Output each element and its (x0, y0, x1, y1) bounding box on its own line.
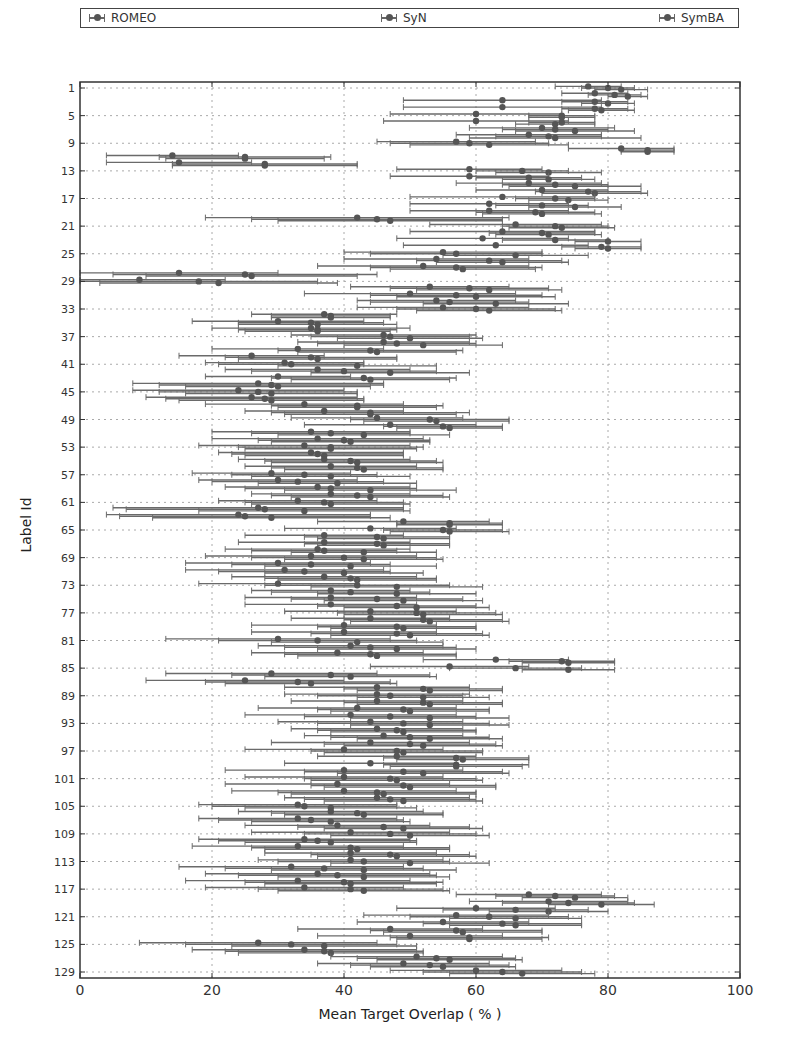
data-point-symba (407, 784, 413, 790)
data-point-symba (605, 238, 611, 244)
data-point-romeo (374, 795, 380, 801)
data-point-romeo (301, 946, 307, 952)
data-point-symba (572, 204, 578, 210)
data-point-romeo (479, 235, 485, 241)
data-point-syn (559, 658, 565, 664)
data-point-syn (552, 126, 558, 132)
data-point-romeo (473, 118, 479, 124)
data-point-syn (420, 617, 426, 623)
data-point-symba (314, 356, 320, 362)
y-tick-label: 89 (61, 690, 75, 703)
data-point-syn (440, 423, 446, 429)
data-point-romeo (374, 684, 380, 690)
data-point-romeo (407, 933, 413, 939)
data-point-romeo (321, 311, 327, 317)
data-point-romeo (440, 249, 446, 255)
data-point-syn (361, 375, 367, 381)
data-point-symba (328, 446, 334, 452)
data-point-symba (545, 176, 551, 182)
data-point-syn (592, 106, 598, 112)
data-point-symba (598, 107, 604, 113)
y-tick-label: 73 (61, 579, 75, 592)
data-point-syn (387, 693, 393, 699)
data-point-romeo (255, 380, 261, 386)
data-point-syn (486, 257, 492, 263)
data-point-romeo (367, 719, 373, 725)
data-point-symba (407, 708, 413, 714)
data-point-romeo (301, 401, 307, 407)
data-point-romeo (242, 677, 248, 683)
data-point-syn (301, 568, 307, 574)
data-point-romeo (466, 173, 472, 179)
data-point-syn (585, 188, 591, 194)
data-point-symba (328, 314, 334, 320)
data-point-syn (400, 769, 406, 775)
y-tick-label: 113 (54, 856, 75, 869)
data-point-syn (354, 582, 360, 588)
data-point-syn (347, 458, 353, 464)
data-point-syn (354, 810, 360, 816)
y-tick-label: 105 (54, 800, 75, 813)
data-point-romeo (288, 864, 294, 870)
data-point-symba (380, 791, 386, 797)
y-axis-label: Label Id (18, 497, 34, 552)
data-point-romeo (394, 753, 400, 759)
data-point-romeo (526, 180, 532, 186)
data-point-symba (427, 722, 433, 728)
data-point-syn (611, 92, 617, 98)
data-point-syn (539, 202, 545, 208)
y-tick-label: 77 (61, 607, 75, 620)
data-point-romeo (493, 242, 499, 248)
data-point-romeo (281, 359, 287, 365)
x-tick-label: 100 (727, 982, 754, 998)
data-point-syn (242, 513, 248, 519)
data-point-syn (407, 734, 413, 740)
data-point-romeo (341, 746, 347, 752)
y-tick-label: 29 (61, 275, 75, 288)
data-point-romeo (374, 415, 380, 421)
data-point-syn (374, 596, 380, 602)
data-point-symba (446, 425, 452, 431)
data-point-romeo (341, 629, 347, 635)
data-point-syn (196, 278, 202, 284)
data-point-romeo (387, 926, 393, 932)
data-point-romeo (328, 808, 334, 814)
data-point-romeo (526, 132, 532, 138)
data-point-romeo (295, 843, 301, 849)
x-tick-label: 40 (335, 982, 353, 998)
data-point-syn (394, 603, 400, 609)
data-point-romeo (453, 138, 459, 144)
data-point-syn (453, 927, 459, 933)
data-point-syn (394, 727, 400, 733)
data-point-syn (407, 741, 413, 747)
data-point-romeo (321, 456, 327, 462)
data-point-symba (380, 542, 386, 548)
data-point-syn (367, 644, 373, 650)
y-tick-label: 33 (61, 303, 75, 316)
data-point-romeo (618, 145, 624, 151)
data-point-romeo (248, 353, 254, 359)
data-point-symba (427, 701, 433, 707)
data-point-syn (374, 534, 380, 540)
data-point-syn (539, 230, 545, 236)
data-point-romeo (486, 208, 492, 214)
data-point-romeo (400, 518, 406, 524)
data-point-symba (347, 563, 353, 569)
data-point-romeo (235, 387, 241, 393)
data-point-symba (400, 597, 406, 603)
data-point-symba (460, 756, 466, 762)
data-point-syn (347, 886, 353, 892)
data-point-symba (400, 798, 406, 804)
data-point-romeo (295, 801, 301, 807)
data-point-syn (394, 623, 400, 629)
data-point-romeo (354, 705, 360, 711)
data-point-romeo (440, 919, 446, 925)
data-point-symba (275, 383, 281, 389)
data-point-romeo (539, 187, 545, 193)
y-tick-label: 13 (61, 165, 75, 178)
data-point-symba (446, 521, 452, 527)
data-point-syn (367, 651, 373, 657)
data-point-romeo (380, 732, 386, 738)
data-point-syn (565, 900, 571, 906)
data-point-romeo (295, 815, 301, 821)
